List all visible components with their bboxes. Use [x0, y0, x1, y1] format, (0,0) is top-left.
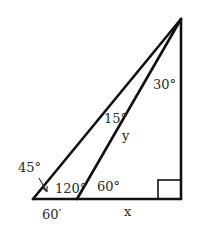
label-angle-45: 45°: [18, 160, 41, 175]
label-angle-120: 120°: [55, 181, 86, 196]
label-side-60ft: 60′: [42, 207, 62, 222]
label-side-y: y: [121, 128, 130, 143]
triangle-diagram: 30° 15° y 45° 120° 60° 60′ x: [0, 0, 198, 230]
right-angle-marker: [158, 180, 181, 199]
label-side-x: x: [124, 204, 132, 219]
left-hypotenuse: [33, 19, 181, 199]
label-angle-60: 60°: [97, 179, 120, 194]
label-angle-30: 30°: [153, 77, 176, 92]
inner-segment-y: [77, 19, 181, 199]
label-angle-15: 15°: [104, 111, 127, 126]
